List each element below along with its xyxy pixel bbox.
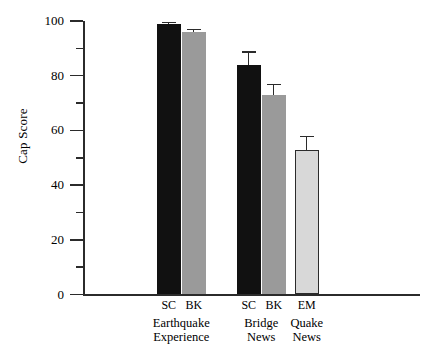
y-axis-line [83, 21, 85, 295]
y-tick-major [70, 75, 83, 77]
error-bar-cap [300, 136, 314, 138]
error-bar-stem [248, 51, 249, 65]
y-tick-label: 20 [4, 233, 64, 246]
error-bar-cap [187, 29, 201, 31]
cap-score-bar-chart: Cap Score 020406080100 SCBKEarthquakeExp… [0, 0, 442, 359]
y-tick-major [70, 184, 83, 186]
error-bar-cap [242, 51, 256, 53]
bar-earthquake-experience-sc [157, 24, 181, 295]
y-tick-minor [76, 212, 83, 214]
error-bar-stem [273, 84, 274, 95]
y-tick-label: 40 [4, 178, 64, 191]
bar-bridge-news-bk [262, 95, 286, 295]
error-bar-cap [162, 22, 176, 24]
series-label-em: EM [282, 299, 332, 311]
group-label-quake-news: QuakeNews [252, 316, 362, 344]
y-tick-label: 80 [4, 69, 64, 82]
y-tick-major [70, 20, 83, 22]
bar-earthquake-experience-bk [182, 32, 206, 295]
y-tick-minor [76, 48, 83, 50]
error-bar-cap [267, 84, 281, 86]
plot-area: Cap Score 020406080100 SCBKEarthquakeExp… [0, 0, 442, 359]
y-tick-major [70, 130, 83, 132]
y-tick-minor [76, 102, 83, 104]
bar-bridge-news-sc [237, 65, 261, 295]
y-tick-label: 60 [4, 123, 64, 136]
y-tick-minor [76, 266, 83, 268]
bar-quake-news-em [295, 150, 319, 295]
series-label-bk: BK [169, 299, 219, 311]
error-bar-stem [306, 136, 307, 150]
y-tick-label: 100 [4, 14, 64, 27]
y-tick-major [70, 294, 83, 296]
y-tick-major [70, 239, 83, 241]
y-tick-label: 0 [4, 288, 64, 301]
y-tick-minor [76, 157, 83, 159]
